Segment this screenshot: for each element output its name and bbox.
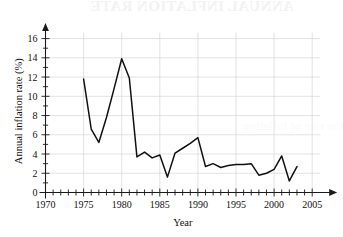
y-tick-label: 4	[33, 149, 38, 160]
y-tick-label: 12	[28, 72, 38, 83]
inflation-line-chart-figure: ANNUAL INFLATION RATE the rate of inflat…	[0, 0, 343, 237]
y-tick-label: 6	[33, 129, 38, 140]
y-tick-label: 14	[28, 52, 38, 63]
chart-canvas: 19701975198019851990199520002005 0246810…	[0, 0, 343, 237]
x-tick-label: 1990	[188, 199, 208, 210]
x-tick-label: 1995	[226, 199, 246, 210]
y-tick-label: 0	[33, 187, 38, 198]
x-axis-tick-labels-group: 19701975198019851990199520002005	[36, 199, 323, 210]
x-tick-label: 2005	[302, 199, 322, 210]
y-axis-tick-labels-group: 0246810121416	[28, 33, 38, 198]
grid-lines-group	[46, 33, 321, 193]
y-tick-label: 8	[33, 110, 38, 121]
x-tick-label: 1975	[74, 199, 94, 210]
x-tick-label: 1970	[36, 199, 56, 210]
y-axis-title: Annual inflation rate (%)	[13, 58, 25, 164]
x-tick-label: 1985	[150, 199, 170, 210]
y-tick-label: 2	[33, 168, 38, 179]
y-tick-label: 10	[28, 91, 38, 102]
x-axis-title: Year	[173, 217, 193, 228]
y-axis-arrowhead-icon	[42, 23, 49, 31]
x-tick-label: 1980	[112, 199, 132, 210]
x-axis-arrowhead-icon	[329, 189, 337, 196]
x-tick-label: 2000	[264, 199, 284, 210]
y-tick-label: 16	[28, 33, 38, 44]
